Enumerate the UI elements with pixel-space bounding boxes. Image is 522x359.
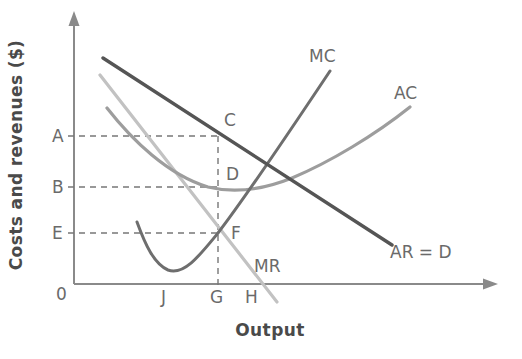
reference-lines-group [68,136,218,290]
x-tick-label-j: J [160,287,166,307]
point-label-f: F [231,223,241,243]
y-axis-title: Costs and revenues ($) [6,40,26,271]
curve-label-ac: AC [394,83,417,103]
y-tick-label-a: A [52,126,64,146]
point-label-c: C [224,110,236,130]
curve-label-mc: MC [309,46,336,66]
x-tick-label-h: H [245,287,258,307]
origin-label: 0 [56,284,67,304]
x-axis-arrowhead [483,279,498,290]
y-tick-label-b: B [52,177,64,197]
y-tick-label-e: E [52,223,63,243]
curve-label-mr: MR [254,256,281,276]
y-axis-arrowhead [69,11,80,26]
x-axis-title: Output [235,320,304,340]
curve-label-ar-d: AR = D [390,242,452,262]
x-tick-label-g: G [210,287,223,307]
point-label-d: D [226,164,239,184]
diagram-canvas: Costs and revenues ($) Output 0 A B E J … [0,0,522,359]
economics-diagram-figure: Costs and revenues ($) Output 0 A B E J … [0,0,522,359]
